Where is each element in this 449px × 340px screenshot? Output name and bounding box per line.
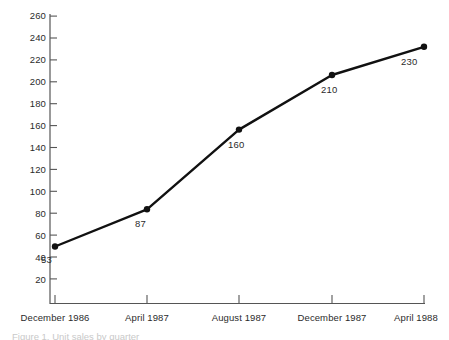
y-tick-label-100: 100 [8, 187, 46, 197]
x-tick-label-april-1988: April 1988 [385, 313, 447, 323]
data-point-marker[interactable] [144, 206, 150, 212]
data-point-label-160: 160 [228, 140, 244, 150]
y-tick-label-180: 180 [8, 99, 46, 109]
data-point-marker[interactable] [236, 126, 242, 132]
y-tick-label-260: 260 [8, 11, 46, 21]
data-point-marker[interactable] [421, 44, 427, 50]
data-point-marker[interactable] [52, 243, 58, 249]
y-tick-label-160: 160 [8, 121, 46, 131]
data-point-label-87: 87 [135, 219, 146, 229]
y-tick-label-80: 80 [8, 209, 46, 219]
x-tick-label-december-1986: December 1986 [6, 313, 104, 323]
x-tick-marks [55, 295, 424, 303]
y-tick-label-200: 200 [8, 77, 46, 87]
x-tick-label-april-1987: April 1987 [107, 313, 187, 323]
data-point-label-230: 230 [401, 57, 417, 67]
y-tick-label-20: 20 [8, 275, 46, 285]
data-point-marker[interactable] [329, 72, 335, 78]
line-chart-figure: 260 240 220 200 180 160 140 120 100 80 6… [0, 0, 449, 340]
y-tick-marks [50, 16, 57, 279]
y-tick-label-140: 140 [8, 143, 46, 153]
figure-caption-clipped: Figure 1. Unit sales by quarter [12, 331, 312, 340]
chart-plot-area [0, 0, 449, 340]
y-tick-label-60: 60 [8, 231, 46, 241]
data-point-label-210: 210 [321, 85, 337, 95]
y-tick-label-120: 120 [8, 165, 46, 175]
data-point-label-53: 53 [41, 255, 52, 265]
x-tick-label-december-1987: December 1987 [283, 313, 381, 323]
x-tick-label-august-1987: August 1987 [197, 313, 281, 323]
y-tick-label-240: 240 [8, 33, 46, 43]
y-tick-label-220: 220 [8, 55, 46, 65]
